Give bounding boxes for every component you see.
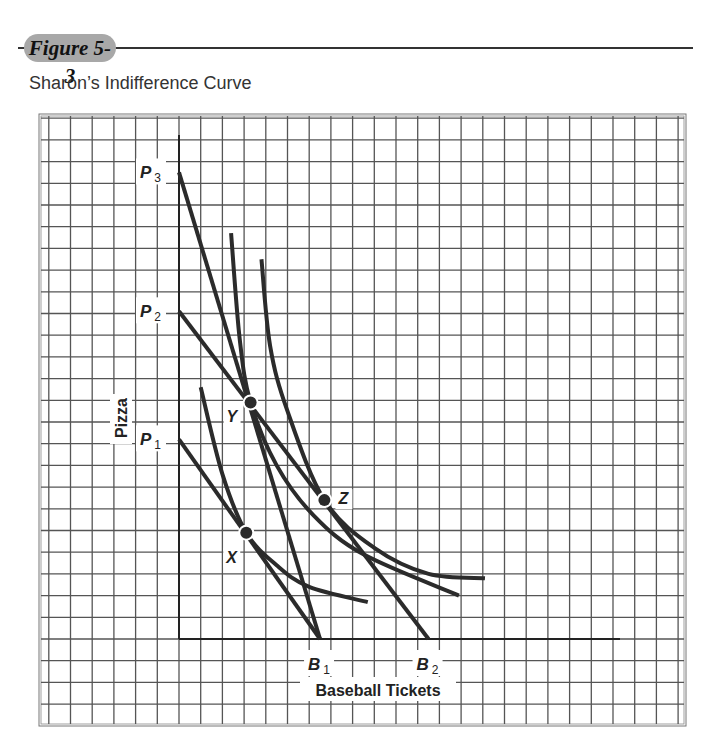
grid-border-inner	[41, 116, 684, 724]
point-z-label: Z	[337, 490, 349, 507]
point-x-label: X	[225, 549, 238, 566]
point-y-marker	[245, 396, 257, 408]
point-y-label: Y	[227, 408, 239, 425]
grid-background	[39, 114, 686, 726]
y-axis-title: Pizza	[113, 398, 130, 438]
point-z-marker	[318, 494, 330, 506]
chart-labels: P1P2P3B1B2Baseball TicketsPizzaXYZ	[110, 158, 456, 701]
point-x-marker	[240, 527, 252, 539]
x-axis-title: Baseball Tickets	[315, 682, 440, 699]
chart-area: P1P2P3B1B2Baseball TicketsPizzaXYZ	[0, 0, 713, 753]
